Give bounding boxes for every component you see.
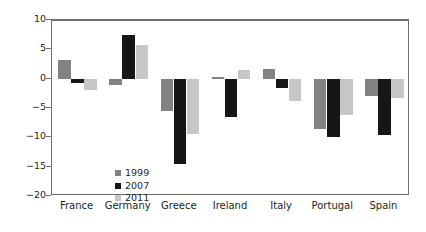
bar-greece-1999 <box>161 79 174 111</box>
y-axis-tick-label: −10 <box>0 130 51 142</box>
legend-swatch-icon-2007 <box>115 183 121 189</box>
bar-portugal-2011 <box>340 79 353 115</box>
legend-item-1999: 1999 <box>115 167 149 180</box>
bar-germany-1999 <box>109 79 122 85</box>
bar-italy-2007 <box>276 79 289 88</box>
legend-label: 2007 <box>125 180 149 193</box>
bar-france-1999 <box>58 60 71 79</box>
bar-italy-1999 <box>263 69 276 79</box>
bar-germany-2011 <box>136 45 149 79</box>
bar-ireland-1999 <box>212 77 225 79</box>
y-axis-tick-label: 10 <box>0 13 51 25</box>
bar-spain-2011 <box>391 79 404 98</box>
bar-france-2007 <box>71 79 84 84</box>
x-axis-label-france: France <box>51 200 102 213</box>
bar-greece-2011 <box>187 79 200 135</box>
bar-germany-2007 <box>122 35 135 79</box>
bar-greece-2007 <box>174 79 187 165</box>
bar-ireland-2011 <box>238 70 251 79</box>
legend-item-2007: 2007 <box>115 180 149 193</box>
x-axis-label-germany: Germany <box>102 200 153 213</box>
x-axis-label-italy: Italy <box>256 200 307 213</box>
y-axis-tick-label: 5 <box>0 42 51 54</box>
bar-italy-2011 <box>289 79 302 101</box>
x-axis-label-spain: Spain <box>358 200 409 213</box>
x-axis-label-greece: Greece <box>153 200 204 213</box>
legend-label: 1999 <box>125 167 149 180</box>
bar-portugal-1999 <box>314 79 327 129</box>
x-axis-label-ireland: Ireland <box>204 200 255 213</box>
plot-area: 199920072011 <box>51 19 409 195</box>
y-axis-tick-label: −5 <box>0 101 51 113</box>
y-axis-tick-label: 0 <box>0 72 51 84</box>
bar-ireland-2007 <box>225 79 238 117</box>
y-axis-tick-label: −15 <box>0 160 51 172</box>
bar-portugal-2007 <box>327 79 340 138</box>
chart-legend: 199920072011 <box>115 167 149 205</box>
y-axis-tick-label: −20 <box>0 189 51 201</box>
bar-france-2011 <box>84 79 97 90</box>
y-axis-tick-mark <box>46 195 51 196</box>
bar-spain-2007 <box>378 79 391 135</box>
chart-figure: Percent of GDP 1050−5−10−15−20 199920072… <box>0 0 426 232</box>
zero-baseline <box>52 20 408 21</box>
legend-swatch-icon-1999 <box>115 170 121 176</box>
x-axis-label-portugal: Portugal <box>307 200 358 213</box>
bar-spain-1999 <box>365 79 378 97</box>
